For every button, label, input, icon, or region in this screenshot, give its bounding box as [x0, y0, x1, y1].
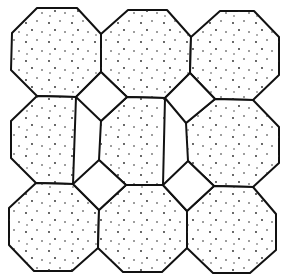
- octagon-group: [9, 8, 279, 273]
- stipple-fill: [11, 96, 76, 184]
- octagon-tile: [11, 8, 101, 97]
- octagon-tile: [11, 96, 76, 184]
- octagon-square-tessellation: [0, 0, 288, 277]
